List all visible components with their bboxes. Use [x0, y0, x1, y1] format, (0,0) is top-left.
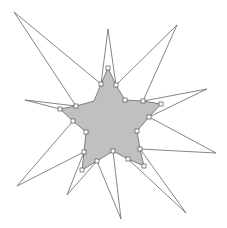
- vertex-handle-12[interactable]: [95, 159, 99, 163]
- vertex-handle-4[interactable]: [141, 99, 145, 103]
- vertex-handle-15[interactable]: [84, 130, 88, 134]
- spike-6: [97, 151, 121, 219]
- vertex-handle-7[interactable]: [135, 129, 139, 133]
- vertex-handle-8[interactable]: [138, 147, 142, 151]
- vertex-handle-2[interactable]: [114, 83, 118, 87]
- spike-2: [116, 25, 177, 101]
- spike-4: [140, 117, 216, 153]
- vertex-handle-17[interactable]: [58, 107, 62, 111]
- vertex-handle-9[interactable]: [142, 164, 146, 168]
- vertex-handle-13[interactable]: [80, 168, 84, 172]
- vertex-handle-11[interactable]: [111, 149, 115, 153]
- diagram-canvas: [0, 0, 227, 228]
- vertex-handle-18[interactable]: [74, 104, 78, 108]
- spike-8: [17, 121, 84, 186]
- vertex-handle-16[interactable]: [71, 119, 75, 123]
- vertex-handle-0[interactable]: [106, 66, 110, 70]
- vertex-handle-1[interactable]: [99, 82, 103, 86]
- spike-0: [14, 12, 101, 106]
- vertex-handle-14[interactable]: [82, 150, 86, 154]
- vertex-handle-6[interactable]: [147, 115, 151, 119]
- vertex-handle-5[interactable]: [159, 102, 163, 106]
- vertex-handle-3[interactable]: [123, 98, 127, 102]
- star-diagram: [0, 0, 227, 228]
- vertex-handle-10[interactable]: [126, 157, 130, 161]
